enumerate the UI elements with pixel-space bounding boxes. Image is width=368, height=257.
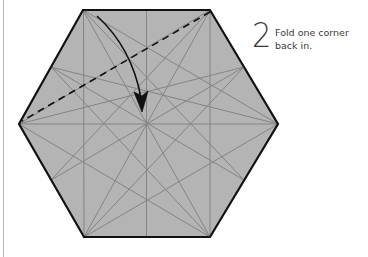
step-text-line-2: back in.: [275, 39, 349, 52]
step-text: Fold one corner back in.: [275, 26, 349, 52]
step-instruction: 2 Fold one corner back in.: [252, 24, 368, 60]
step-number: 2: [252, 18, 271, 52]
step-text-line-1: Fold one corner: [275, 26, 349, 39]
